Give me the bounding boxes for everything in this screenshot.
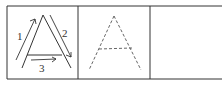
stroke-label-3: 3: [39, 62, 45, 74]
worksheet-drawing: 1 2 3: [0, 0, 222, 86]
box-stroke-order: 1 2 3: [16, 15, 71, 74]
stroke-label-1: 1: [17, 30, 23, 42]
box-empty-practice[interactable]: [151, 7, 221, 78]
stroke-label-2: 2: [62, 27, 68, 39]
box-trace-letter: [89, 16, 141, 70]
stroke-arrow-2-icon: [50, 15, 71, 57]
handwriting-worksheet: 1 2 3: [0, 0, 222, 86]
